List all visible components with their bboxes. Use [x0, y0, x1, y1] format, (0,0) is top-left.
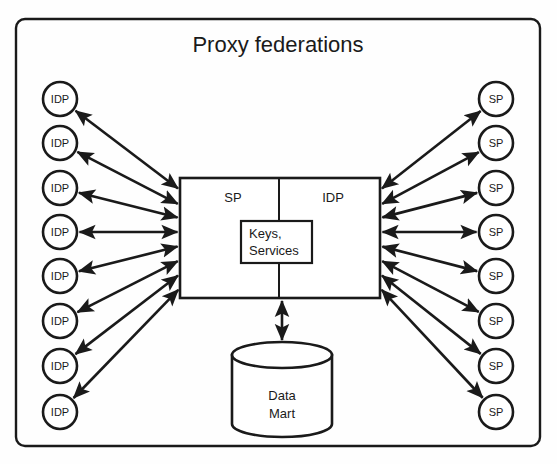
- idp-node-8-label: IDP: [51, 406, 69, 418]
- idp-node-3-label: IDP: [51, 182, 69, 194]
- idp-node-1-label: IDP: [51, 93, 69, 105]
- data-mart-label-line2: Mart: [269, 406, 295, 421]
- proxy-sp-section-label: SP: [224, 190, 241, 205]
- sp-node-2-label: SP: [489, 137, 504, 149]
- idp-node-2-label: IDP: [51, 137, 69, 149]
- idp-node-5-label: IDP: [51, 270, 69, 282]
- sp-node-8-label: SP: [489, 406, 504, 418]
- diagram-title: Proxy federations: [192, 32, 363, 57]
- keys-label: Keys,: [249, 226, 282, 241]
- sp-node-3-label: SP: [489, 182, 504, 194]
- sp-node-4-label: SP: [489, 226, 504, 238]
- sp-node-7-label: SP: [489, 360, 504, 372]
- sp-node-5-label: SP: [489, 270, 504, 282]
- data-mart-label-line1: Data: [268, 388, 296, 403]
- services-label: Services: [249, 243, 299, 258]
- sp-node-1-label: SP: [489, 93, 504, 105]
- idp-node-6-label: IDP: [51, 315, 69, 327]
- proxy-federations-diagram: Proxy federationsSPIDPKeys,ServicesDataM…: [0, 0, 557, 464]
- idp-node-4-label: IDP: [51, 226, 69, 238]
- sp-node-6-label: SP: [489, 315, 504, 327]
- proxy-idp-section-label: IDP: [322, 190, 344, 205]
- idp-node-7-label: IDP: [51, 360, 69, 372]
- data-mart-cylinder-top: [232, 342, 332, 368]
- diagram-canvas: Proxy federationsSPIDPKeys,ServicesDataM…: [0, 0, 557, 464]
